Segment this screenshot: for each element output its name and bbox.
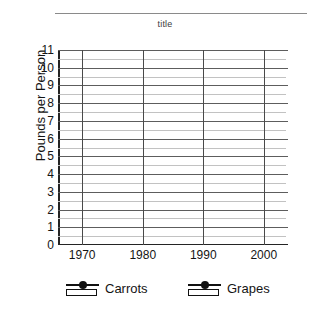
legend-marker-icon (188, 280, 221, 297)
y-tick-label: 1 (34, 221, 54, 233)
gridline-major (58, 103, 288, 104)
gridline-major (58, 227, 288, 228)
legend-label: Grapes (227, 281, 270, 296)
y-tick-label: 2 (34, 204, 54, 216)
y-tick-label: 6 (34, 133, 54, 145)
x-axis-tick-labels: 1970198019902000 (58, 248, 288, 264)
plot-area (58, 50, 288, 245)
legend-item[interactable]: Carrots (66, 277, 148, 299)
gridline-minor (58, 165, 286, 166)
gridline-minor (58, 59, 286, 60)
gridline-major (58, 50, 288, 51)
gridline-major (58, 174, 288, 175)
gridline-major (58, 121, 288, 122)
legend-marker-icon (66, 280, 99, 297)
gridline-minor (58, 201, 286, 202)
chart-legend: CarrotsGrapes (58, 277, 288, 301)
gridline-major (58, 85, 288, 86)
gridline-major (58, 192, 288, 193)
y-tick-label: 3 (34, 186, 54, 198)
legend-box-icon (66, 289, 97, 296)
gridline-major (58, 210, 288, 211)
legend-dot-icon (79, 281, 87, 289)
gridline-minor (58, 130, 286, 131)
gridline-minor (58, 112, 286, 113)
y-tick-label: 5 (34, 150, 54, 162)
gridline-minor (58, 218, 286, 219)
gridline-major (58, 156, 288, 157)
gridline-minor (58, 77, 286, 78)
title-divider (55, 13, 307, 14)
gridline-major (58, 68, 288, 69)
gridline-minor (58, 94, 286, 95)
gridline-vertical (264, 50, 265, 245)
legend-dot-icon (201, 281, 209, 289)
x-axis-line (58, 244, 288, 246)
y-tick-label: 9 (34, 79, 54, 91)
gridline-vertical (82, 50, 83, 245)
gridline-major (58, 139, 288, 140)
gridline-minor (58, 236, 286, 237)
y-tick-label: 8 (34, 97, 54, 109)
x-tick-label: 1990 (181, 248, 225, 262)
gridline-vertical (143, 50, 144, 245)
y-tick-label: 7 (34, 115, 54, 127)
chart-title: title (60, 19, 270, 30)
legend-label: Carrots (105, 281, 148, 296)
y-tick-label: 0 (34, 239, 54, 251)
legend-box-icon (188, 289, 219, 296)
y-tick-label: 10 (34, 62, 54, 74)
x-tick-label: 2000 (242, 248, 286, 262)
gridline-minor (58, 148, 286, 149)
x-tick-label: 1970 (60, 248, 104, 262)
y-tick-label: 11 (34, 44, 54, 56)
y-axis-tick-labels: 01234567891011 (32, 50, 54, 245)
chart-container: title Pounds per Person 01234567891011 1… (0, 0, 312, 310)
gridline-vertical (203, 50, 204, 245)
gridline-minor (58, 183, 286, 184)
x-tick-label: 1980 (121, 248, 165, 262)
legend-item[interactable]: Grapes (188, 277, 270, 299)
y-tick-label: 4 (34, 168, 54, 180)
